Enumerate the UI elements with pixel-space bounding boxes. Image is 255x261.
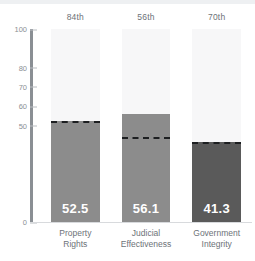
bar-value-property-rights: 52.5: [51, 201, 100, 216]
category-label-line: Property: [40, 228, 111, 239]
bar-column-judicial-effectiveness[interactable]: 56.1: [111, 29, 182, 222]
y-tick-label-50: 50: [19, 121, 40, 130]
reference-marker-government-integrity: [192, 142, 241, 144]
percentile-rank-2: 70th: [181, 10, 252, 24]
y-tick-label-70: 70: [19, 82, 40, 91]
category-label-line: Effectiveness: [111, 239, 182, 250]
category-label-line: Rights: [40, 239, 111, 250]
y-tick-label-60: 60: [19, 102, 40, 111]
bar-column-property-rights[interactable]: 52.5: [40, 29, 111, 222]
bar-chart: 84th 56th 70th 100 80 70 60 50 0 52.5 56…: [0, 0, 255, 261]
bar-government-integrity[interactable]: 41.3: [192, 142, 241, 222]
percentile-rank-0: 84th: [40, 10, 111, 24]
top-divider: [0, 0, 255, 4]
bar-value-government-integrity: 41.3: [192, 201, 241, 216]
category-label-line: Integrity: [181, 239, 252, 250]
bar-judicial-effectiveness[interactable]: 56.1: [122, 114, 171, 222]
bar-column-government-integrity[interactable]: 41.3: [181, 29, 252, 222]
bar-property-rights[interactable]: 52.5: [51, 121, 100, 222]
bar-columns: 52.5 56.1 41.3: [40, 29, 252, 222]
category-label-line: Judicial: [111, 228, 182, 239]
category-label-row: Property Rights Judicial Effectiveness G…: [40, 228, 252, 249]
y-tick-label-80: 80: [19, 63, 40, 72]
y-tick-label-100: 100: [14, 25, 40, 34]
category-label-line: Government: [181, 228, 252, 239]
x-axis-baseline: [30, 222, 252, 223]
percentile-rank-1: 56th: [111, 10, 182, 24]
reference-marker-judicial-effectiveness: [122, 137, 171, 139]
category-label-government-integrity: Government Integrity: [181, 228, 252, 249]
category-label-judicial-effectiveness: Judicial Effectiveness: [111, 228, 182, 249]
percentile-header-row: 84th 56th 70th: [40, 10, 252, 24]
reference-marker-property-rights: [51, 121, 100, 123]
bar-value-judicial-effectiveness: 56.1: [122, 201, 171, 216]
plot-area: 100 80 70 60 50 0 52.5 56.1: [40, 29, 252, 222]
category-label-property-rights: Property Rights: [40, 228, 111, 249]
